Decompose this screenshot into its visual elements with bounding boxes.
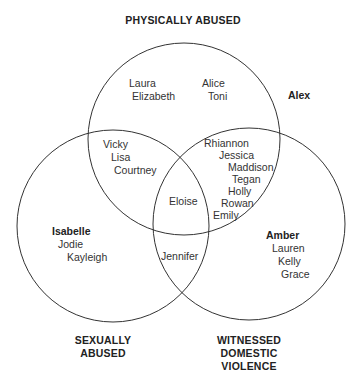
label-physically-abused: PHYSICALLY ABUSED bbox=[120, 14, 246, 27]
name-dv-only: Kelly bbox=[278, 255, 301, 267]
name-dv-only: Amber bbox=[266, 229, 299, 241]
name-dv-only: Lauren bbox=[272, 242, 305, 254]
name-sexual-only: Jodie bbox=[58, 238, 83, 250]
name-all-three: Eloise bbox=[169, 195, 198, 207]
name-outside: Alex bbox=[288, 89, 310, 101]
name-physical-only: Laura bbox=[129, 77, 156, 89]
name-physical-dv: Rhiannon bbox=[204, 137, 249, 149]
name-physical-dv: Holly bbox=[228, 185, 251, 197]
name-physical-only: Elizabeth bbox=[132, 90, 175, 102]
name-sexual-only: Isabelle bbox=[52, 225, 91, 237]
label-line: DOMESTIC bbox=[206, 347, 292, 360]
name-physical-sexual: Courtney bbox=[114, 164, 157, 176]
name-sexual-only: Kayleigh bbox=[67, 251, 107, 263]
venn-circles bbox=[0, 0, 356, 382]
label-line: ABUSED bbox=[60, 347, 146, 360]
label-line: WITNESSED bbox=[206, 334, 292, 347]
name-physical-dv: Emily bbox=[213, 209, 239, 221]
name-physical-dv: Jessica bbox=[219, 149, 254, 161]
label-witnessed-domestic-violence: WITNESSED DOMESTIC VIOLENCE bbox=[206, 334, 292, 373]
name-physical-only: Alice bbox=[202, 77, 225, 89]
name-physical-sexual: Vicky bbox=[103, 138, 128, 150]
name-physical-dv: Tegan bbox=[232, 173, 261, 185]
label-sexually-abused: SEXUALLY ABUSED bbox=[60, 334, 146, 360]
name-physical-sexual: Lisa bbox=[111, 151, 130, 163]
name-sexual-dv: Jennifer bbox=[161, 250, 198, 262]
label-line: VIOLENCE bbox=[206, 360, 292, 373]
label-line: SEXUALLY bbox=[60, 334, 146, 347]
name-physical-dv: Rowan bbox=[221, 197, 254, 209]
name-physical-dv: Maddison bbox=[228, 161, 274, 173]
name-dv-only: Grace bbox=[281, 268, 310, 280]
name-physical-only: Toni bbox=[208, 90, 227, 102]
